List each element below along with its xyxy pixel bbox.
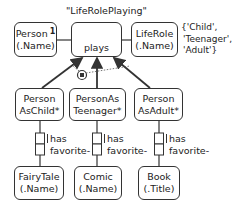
- entity-book[interactable]: Book (.Title): [138, 166, 180, 200]
- reference-mode: (.Name): [16, 40, 54, 52]
- subtype-person-as-child[interactable]: Person AsChild*: [15, 88, 64, 121]
- fact-type-child: [36, 121, 48, 166]
- subtype-arrow-adult: [114, 58, 150, 88]
- value-constraint: {'Child', 'Teenager', 'Adult'}: [181, 22, 232, 57]
- entity-comic[interactable]: Comic (.Name): [74, 166, 122, 200]
- entity-liferole[interactable]: LifeRole (.Name): [131, 22, 178, 57]
- entity-name: LifeRole: [136, 28, 174, 40]
- fact-label-adult: has favorite-: [169, 133, 209, 157]
- fact-type-title: "LifeRolePlaying": [66, 5, 147, 17]
- fact-type-teenager: [93, 121, 105, 166]
- subtype-person-as-adult[interactable]: Person AsAdult*: [134, 88, 183, 121]
- fact-label-teenager: has favorite-: [107, 133, 147, 157]
- fact-label-child: has favorite-: [50, 133, 90, 157]
- footnote-marker: 1: [50, 27, 56, 36]
- fact-type-plays[interactable]: plays: [71, 22, 122, 57]
- reference-mode: (.Name): [135, 40, 173, 52]
- subtype-person-as-teenager[interactable]: PersonAs Teenager*: [69, 88, 126, 121]
- fact-type-label: plays: [84, 42, 109, 54]
- entity-fairytale[interactable]: FairyTale (.Name): [14, 166, 64, 200]
- entity-person[interactable]: Person1 (.Name): [14, 22, 57, 57]
- entity-name: Person: [16, 28, 48, 39]
- subtype-arrow-child: [42, 58, 82, 88]
- fact-type-adult: [155, 121, 167, 166]
